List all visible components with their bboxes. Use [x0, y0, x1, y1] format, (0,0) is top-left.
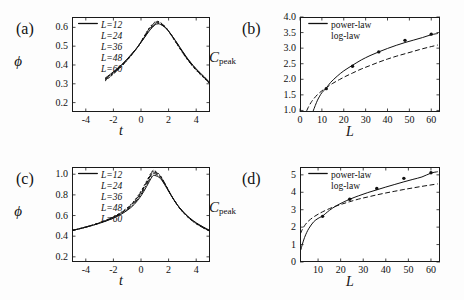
x-tick-a-1: -2 [102, 114, 124, 125]
x-tick-b-5: 50 [398, 114, 420, 125]
x-axis-label-b: L [330, 124, 370, 140]
legend-label-b-0: power-law [331, 20, 371, 30]
x-tick-b-3: 30 [355, 114, 377, 125]
legend-label-d-1: log-law [331, 181, 360, 191]
legend-label-a-4: L=60 [101, 64, 122, 74]
y-axis-label-c: ϕ [14, 204, 22, 219]
x-tick-d-4: 50 [397, 264, 419, 275]
x-tick-b-4: 40 [377, 114, 399, 125]
y-tick-b-5: 3.5 [284, 27, 297, 38]
x-tick-d-5: 60 [420, 264, 442, 275]
legend-label-c-3: L=48 [101, 203, 122, 213]
legend-row-a-4: L=60 [78, 63, 122, 74]
legend-row-c-1: L=24 [78, 180, 122, 191]
legend-b: power-lawlog-law [308, 19, 371, 41]
figure-four-panel: (a)ϕt0.20.30.40.50.6-4-2024L=12L=24L=36L… [0, 0, 464, 300]
x-tick-d-0: 10 [307, 264, 329, 275]
y-tick-d-0: 0 [291, 256, 296, 267]
y-tick-a-4: 0.6 [56, 21, 69, 32]
legend-label-c-1: L=24 [101, 181, 122, 191]
legend-label-a-0: L=12 [101, 20, 122, 30]
y-tick-d-2: 2 [291, 221, 296, 232]
y-tick-b-3: 2.5 [284, 58, 297, 69]
panel-label-c: (c) [16, 170, 34, 188]
x-tick-c-2: 0 [130, 264, 152, 275]
y-axis-label-a: ϕ [14, 54, 22, 69]
y-axis-label-b: Cpeak [209, 50, 236, 66]
legend-c: L=12L=24L=36L=48L=60 [78, 169, 122, 224]
y-tick-d-3: 3 [291, 204, 296, 215]
y-tick-a-0: 0.2 [56, 97, 69, 108]
y-tick-a-3: 0.5 [56, 40, 69, 51]
legend-label-c-0: L=12 [101, 170, 122, 180]
panel-label-a: (a) [16, 20, 34, 38]
legend-row-d-1: log-law [308, 180, 371, 191]
legend-key-c-2 [78, 192, 98, 201]
legend-key-a-2 [78, 42, 98, 51]
x-tick-c-4: 4 [185, 264, 207, 275]
x-axis-label-a: t [101, 123, 141, 139]
legend-row-b-1: log-law [308, 30, 371, 41]
y-tick-d-1: 1 [291, 239, 296, 250]
legend-row-c-2: L=36 [78, 191, 122, 202]
legend-key-d-1 [308, 181, 328, 190]
x-axis-label-d: L [330, 274, 370, 290]
x-tick-b-6: 60 [420, 114, 442, 125]
legend-key-c-4 [78, 214, 98, 223]
legend-label-a-2: L=36 [101, 42, 122, 52]
x-tick-c-3: 2 [158, 264, 180, 275]
legend-row-c-4: L=60 [78, 213, 122, 224]
legend-label-d-0: power-law [331, 170, 371, 180]
x-tick-b-1: 10 [311, 114, 333, 125]
y-tick-c-4: 1.0 [56, 168, 69, 179]
legend-a: L=12L=24L=36L=48L=60 [78, 19, 122, 74]
legend-key-b-1 [308, 31, 328, 40]
y-axis-label-d: Cpeak [209, 200, 236, 216]
x-tick-d-2: 30 [352, 264, 374, 275]
x-tick-d-1: 20 [330, 264, 352, 275]
y-tick-c-2: 0.6 [56, 210, 69, 221]
y-tick-d-5: 5 [291, 169, 296, 180]
x-tick-d-3: 40 [375, 264, 397, 275]
y-tick-d-4: 4 [291, 186, 296, 197]
x-axis-label-c: t [101, 273, 141, 289]
x-tick-b-0: 0 [289, 114, 311, 125]
x-tick-c-0: -4 [75, 264, 97, 275]
panel-label-b: (b) [242, 20, 261, 38]
legend-key-a-3 [78, 53, 98, 62]
x-tick-a-0: -4 [75, 114, 97, 125]
legend-row-a-1: L=24 [78, 30, 122, 41]
legend-key-c-1 [78, 181, 98, 190]
legend-key-c-3 [78, 203, 98, 212]
x-tick-a-4: 4 [185, 114, 207, 125]
legend-label-c-2: L=36 [101, 192, 122, 202]
y-tick-a-2: 0.4 [56, 59, 69, 70]
panel-label-d: (d) [242, 170, 261, 188]
legend-label-a-3: L=48 [101, 53, 122, 63]
legend-row-a-3: L=48 [78, 52, 122, 63]
y-tick-b-6: 4.0 [284, 11, 297, 22]
y-tick-c-1: 0.4 [56, 230, 69, 241]
legend-label-c-4: L=60 [101, 214, 122, 224]
legend-label-b-1: log-law [331, 31, 360, 41]
legend-label-a-1: L=24 [101, 31, 122, 41]
legend-key-a-1 [78, 31, 98, 40]
x-tick-c-1: -2 [102, 264, 124, 275]
y-tick-c-0: 0.2 [56, 251, 69, 262]
legend-row-c-3: L=48 [78, 202, 122, 213]
y-tick-b-4: 3.0 [284, 42, 297, 53]
y-tick-c-3: 0.8 [56, 189, 69, 200]
y-tick-a-1: 0.3 [56, 78, 69, 89]
legend-d: power-lawlog-law [308, 169, 371, 191]
x-tick-a-2: 0 [130, 114, 152, 125]
x-tick-a-3: 2 [158, 114, 180, 125]
legend-row-a-2: L=36 [78, 41, 122, 52]
x-tick-b-2: 20 [333, 114, 355, 125]
y-tick-b-1: 1.5 [284, 89, 297, 100]
legend-key-a-4 [78, 64, 98, 73]
y-tick-b-2: 2.0 [284, 73, 297, 84]
